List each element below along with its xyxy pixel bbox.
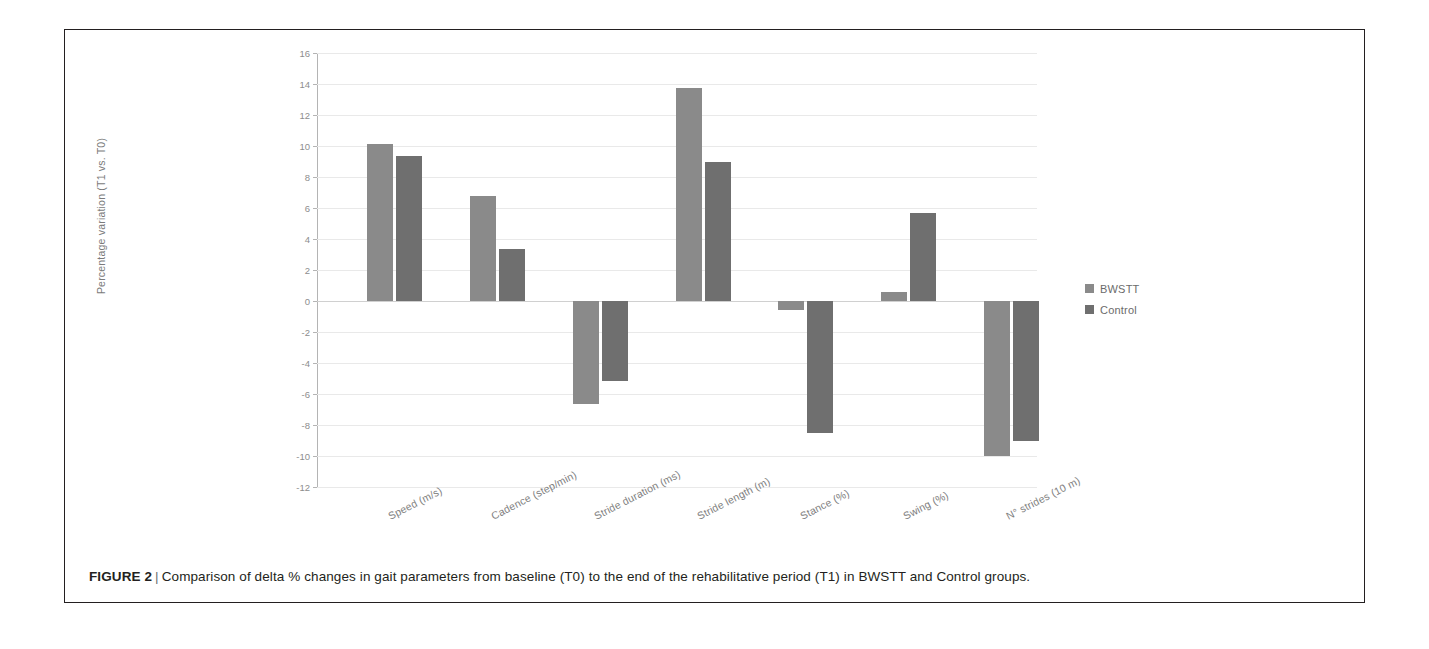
gridline — [317, 53, 1037, 54]
bar — [705, 162, 731, 301]
x-axis-category-label: Speed (m/s) — [386, 484, 444, 521]
bar — [1013, 301, 1039, 441]
legend-item-label: BWSTT — [1100, 283, 1140, 295]
legend-item: BWSTT — [1085, 278, 1140, 299]
figure-caption: FIGURE 2|Comparison of delta % changes i… — [89, 568, 1340, 586]
x-axis-category-label: Swing (%) — [901, 489, 950, 522]
y-axis-tick-mark — [313, 487, 317, 488]
bar-chart: Percentage variation (T1 vs. T0) 1614121… — [65, 30, 1366, 550]
bar — [910, 213, 936, 301]
bar — [602, 301, 628, 381]
legend-swatch-icon — [1085, 284, 1094, 293]
y-axis-title: Percentage variation (T1 vs. T0) — [95, 86, 107, 346]
y-axis-tick-mark — [313, 394, 317, 395]
y-axis-tick-label: -8 — [302, 420, 310, 431]
y-axis-tick-mark — [313, 146, 317, 147]
y-axis-tick-label: 12 — [299, 110, 310, 121]
bar — [470, 196, 496, 301]
y-axis-tick-label: 0 — [305, 296, 310, 307]
gridline — [317, 84, 1037, 85]
y-axis-tick-label: 6 — [305, 203, 310, 214]
gridline — [317, 456, 1037, 457]
figure-caption-text: Comparison of delta % changes in gait pa… — [162, 569, 1031, 584]
figure-frame: Percentage variation (T1 vs. T0) 1614121… — [64, 29, 1365, 603]
y-axis-tick-label: 10 — [299, 141, 310, 152]
y-axis-tick-mark — [313, 208, 317, 209]
legend-item: Control — [1085, 299, 1140, 320]
y-axis-tick-mark — [313, 301, 317, 302]
y-axis-tick-label: -4 — [302, 358, 310, 369]
y-axis-tick-mark — [313, 239, 317, 240]
y-axis-tick-label: 8 — [305, 172, 310, 183]
y-axis-tick-label: 16 — [299, 48, 310, 59]
y-axis-tick-mark — [313, 425, 317, 426]
y-axis-tick-mark — [313, 115, 317, 116]
y-axis-tick-mark — [313, 332, 317, 333]
legend-swatch-icon — [1085, 305, 1094, 314]
bar — [984, 301, 1010, 456]
y-axis-tick-mark — [313, 270, 317, 271]
figure-number: FIGURE 2 — [89, 569, 152, 584]
y-axis-tick-label: 14 — [299, 79, 310, 90]
bar — [499, 249, 525, 301]
y-axis-tick-label: 4 — [305, 234, 310, 245]
y-axis-tick-label: -10 — [296, 451, 310, 462]
bar — [881, 292, 907, 301]
y-axis-tick-mark — [313, 363, 317, 364]
y-axis-tick-label: 2 — [305, 265, 310, 276]
legend-item-label: Control — [1100, 304, 1137, 316]
gridline — [317, 332, 1037, 333]
bar — [778, 301, 804, 310]
gridline — [317, 301, 1037, 302]
bar — [367, 144, 393, 301]
figure-caption-separator: | — [152, 569, 162, 584]
gridline — [317, 363, 1037, 364]
bar — [396, 156, 422, 301]
y-axis-tick-label: -12 — [296, 482, 310, 493]
y-axis-tick-mark — [313, 177, 317, 178]
y-axis-tick-label: -6 — [302, 389, 310, 400]
gridline — [317, 487, 1037, 488]
y-axis-tick-mark — [313, 53, 317, 54]
y-axis-tick-label: -2 — [302, 327, 310, 338]
gridline — [317, 425, 1037, 426]
x-axis-category-label: Stance (%) — [798, 487, 851, 522]
bar — [676, 88, 702, 301]
y-axis-tick-mark — [313, 456, 317, 457]
bar — [573, 301, 599, 404]
chart-legend: BWSTTControl — [1085, 278, 1140, 320]
plot-area: 1614121086420-2-4-6-8-10-12 — [317, 53, 1037, 487]
bar — [807, 301, 833, 433]
y-axis-tick-mark — [313, 84, 317, 85]
gridline — [317, 394, 1037, 395]
